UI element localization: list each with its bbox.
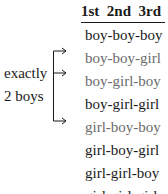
bracket-arrows-icon	[0, 0, 168, 194]
